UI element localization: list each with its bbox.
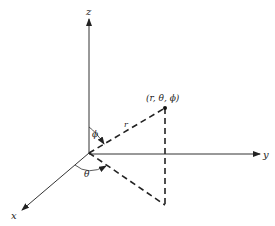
y-axis-label: y bbox=[262, 149, 269, 160]
point-marker bbox=[163, 106, 167, 110]
z-axis-label: z bbox=[85, 6, 92, 17]
radius-line bbox=[89, 108, 165, 153]
theta-angle-arc bbox=[75, 165, 106, 171]
theta-label: θ bbox=[84, 169, 90, 179]
phi-label: ϕ bbox=[92, 129, 98, 139]
spherical-coordinates-diagram: z y x r (r, θ, ϕ) ϕ θ bbox=[0, 0, 275, 226]
xy-projection-line bbox=[89, 153, 165, 205]
x-axis-label: x bbox=[11, 210, 17, 221]
point-label: (r, θ, ϕ) bbox=[146, 93, 180, 103]
radius-label: r bbox=[124, 120, 129, 129]
x-axis bbox=[22, 153, 89, 210]
